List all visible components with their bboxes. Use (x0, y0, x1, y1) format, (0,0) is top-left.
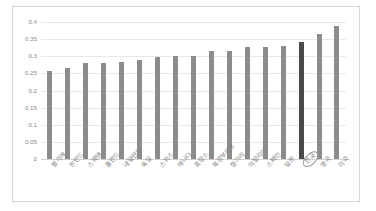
y-axis-tick-label: 0.1 (0, 122, 37, 128)
x-label-slot: 스위스 (149, 159, 167, 211)
bar-slot (41, 22, 59, 159)
x-label-slot: 이탈리아 (238, 159, 256, 211)
bar (209, 51, 214, 159)
bar (137, 60, 142, 159)
bar (299, 42, 304, 159)
bar-slot (149, 22, 167, 159)
bar-slot (167, 22, 185, 159)
x-label-slot: 독일 (131, 159, 149, 211)
x-axis-category-labels: 벨기에핀란드스웨덴폴란드네덜란드독일스위스캐나다프랑스룩셈부르크헝가리이탈리아스… (41, 159, 346, 211)
bar-slot (328, 22, 346, 159)
bar (119, 62, 124, 159)
bar (191, 56, 196, 159)
bar-slot (220, 22, 238, 159)
bar-slot (59, 22, 77, 159)
bar-slot (202, 22, 220, 159)
bar-slot (113, 22, 131, 159)
x-label-slot: 일본 (274, 159, 292, 211)
bar (65, 68, 70, 159)
x-label-slot: 헝가리 (220, 159, 238, 211)
y-axis-tick-label: 0.2 (0, 87, 37, 93)
x-label-slot: 미국 (328, 159, 346, 211)
bar (245, 47, 250, 159)
x-label-slot: 벨기에 (41, 159, 59, 211)
bar-slot (256, 22, 274, 159)
y-axis-tick-label: 0.05 (0, 139, 37, 145)
bar (155, 57, 160, 159)
x-label-slot: 프랑스 (185, 159, 203, 211)
y-axis-tick-label: 0.3 (0, 53, 37, 59)
y-axis-tick-label: 0 (0, 156, 37, 162)
bar (263, 47, 268, 159)
bar-slot (310, 22, 328, 159)
bar (281, 46, 286, 159)
bar-series (41, 22, 346, 159)
plot-area: 00.050.10.150.20.250.30.350.4 (41, 22, 346, 159)
bar (173, 56, 178, 159)
bar-slot (185, 22, 203, 159)
x-label-slot: 캐나다 (167, 159, 185, 211)
bar (317, 34, 322, 159)
x-label-slot: 룩셈부르크 (202, 159, 220, 211)
x-label-slot: 한국 (292, 159, 310, 211)
x-label-slot: 네덜란드 (113, 159, 131, 211)
bar (101, 63, 106, 159)
y-axis-tick-label: 0.35 (0, 36, 37, 42)
y-axis-tick-label: 0.15 (0, 105, 37, 111)
x-label-slot: 핀란드 (59, 159, 77, 211)
y-axis-tick-label: 0.4 (0, 19, 37, 25)
bar-slot (131, 22, 149, 159)
bar-slot (95, 22, 113, 159)
bar (334, 26, 339, 159)
y-axis-tick-label: 0.25 (0, 70, 37, 76)
bar-slot (292, 22, 310, 159)
chart-container: 00.050.10.150.20.250.30.350.4 벨기에핀란드스웨덴폴… (12, 6, 360, 202)
x-label-slot: 스웨덴 (77, 159, 95, 211)
x-label-slot: 스페인 (256, 159, 274, 211)
bar-slot (274, 22, 292, 159)
bar (47, 71, 52, 159)
bar-slot (77, 22, 95, 159)
x-label-slot: 폴란드 (95, 159, 113, 211)
x-label-slot: 영국 (310, 159, 328, 211)
bar (83, 63, 88, 159)
bar-slot (238, 22, 256, 159)
